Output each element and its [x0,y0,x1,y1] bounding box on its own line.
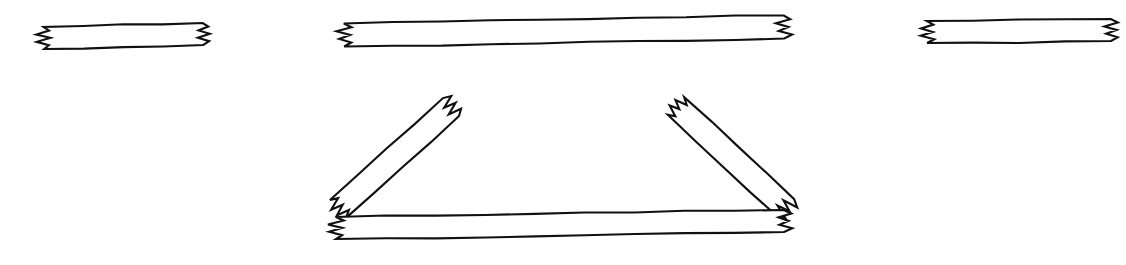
bar-short-right [921,19,1118,43]
shape-layer [36,15,1118,239]
broken-bar-diagram [0,0,1126,265]
bar-short-left [36,23,210,49]
bar-diagonal-right [668,97,797,218]
bar-base-bottom [328,210,792,239]
bar-diagonal-left [330,96,461,218]
bar-long-center [336,15,792,46]
diagram-canvas [0,0,1126,265]
